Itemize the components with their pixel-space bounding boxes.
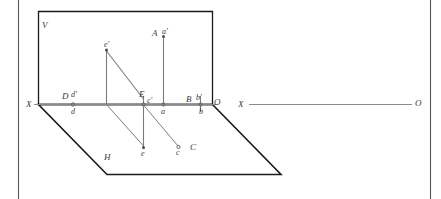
connector-e-prime-to-E — [107, 51, 144, 99]
point-label-c: c — [176, 149, 180, 157]
axis-origin-label-O: O — [214, 98, 221, 107]
secondary-axis-right-label-O: O — [415, 99, 422, 108]
point-label-D: D — [62, 92, 69, 101]
point-label-A: A — [152, 29, 158, 38]
point-label-B: B — [186, 95, 192, 104]
vertical-plane-label: V — [42, 21, 48, 30]
point-label-E: E — [139, 90, 145, 99]
point-label-C: C — [190, 143, 196, 152]
point-label-b: b — [199, 108, 203, 116]
axis-left-label-X: X — [26, 100, 32, 109]
point-label-a-prime: a' — [162, 28, 168, 36]
point-label-d: d — [71, 108, 75, 116]
point-label-a: a — [161, 108, 165, 116]
projection-figure: V H X O X O A a' a B b' b C c' c D d' d … — [0, 0, 441, 199]
connector-axis-to-e — [107, 105, 144, 147]
point-label-c-prime: c' — [147, 97, 152, 105]
secondary-axis-left-label-X: X — [238, 100, 244, 109]
point-label-e-prime: e' — [104, 41, 109, 49]
point-label-b-prime: b' — [196, 94, 202, 102]
point-label-d-prime: d' — [71, 91, 77, 99]
point-label-e: e — [141, 150, 145, 158]
horizontal-plane-label: H — [104, 153, 111, 162]
